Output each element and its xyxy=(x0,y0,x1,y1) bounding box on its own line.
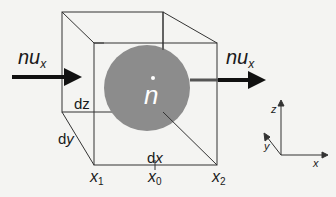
x0-label: x0 xyxy=(148,169,162,187)
control-volume-diagram: nux nux n dz dy dx x1 x0 x2 z y x xyxy=(0,0,336,197)
outflow-label: nux xyxy=(226,47,254,70)
axis-y-label: y xyxy=(264,141,270,152)
outflow-arrow xyxy=(190,71,266,89)
inflow-label: nux xyxy=(18,47,46,70)
x1-label: x1 xyxy=(90,169,104,187)
axis-x-label: x xyxy=(313,158,319,169)
dz-label: dz xyxy=(74,96,90,111)
dot-accent xyxy=(151,76,155,80)
x2-label: x2 xyxy=(212,169,226,187)
dy-label: dy xyxy=(58,131,74,146)
inflow-arrow xyxy=(12,68,82,86)
sphere-label: n xyxy=(144,82,158,108)
diagram-graphics xyxy=(0,0,336,197)
dx-label: dx xyxy=(147,150,163,165)
axis-z-label: z xyxy=(271,104,277,115)
